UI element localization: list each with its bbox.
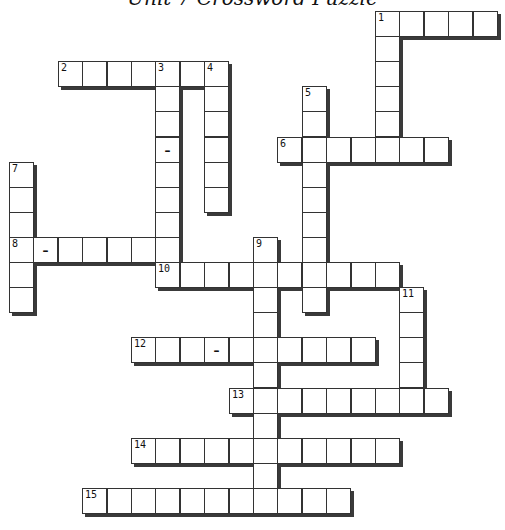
crossword-cell[interactable] [107, 237, 132, 263]
crossword-cell[interactable] [375, 61, 400, 87]
crossword-cell[interactable] [302, 438, 327, 464]
crossword-cell[interactable] [180, 262, 205, 288]
crossword-cell[interactable] [204, 488, 229, 514]
crossword-cell[interactable] [277, 438, 302, 464]
crossword-cell[interactable] [302, 137, 327, 163]
crossword-cell[interactable] [82, 61, 107, 87]
crossword-cell[interactable]: 15 [82, 488, 107, 514]
crossword-cell[interactable]: 14 [131, 438, 156, 464]
crossword-cell[interactable] [155, 187, 180, 213]
crossword-cell[interactable] [204, 162, 229, 188]
crossword-cell[interactable] [253, 362, 278, 388]
crossword-cell[interactable] [326, 262, 351, 288]
crossword-cell[interactable] [302, 237, 327, 263]
crossword-cell[interactable] [375, 111, 400, 137]
crossword-cell[interactable]: 6 [277, 137, 302, 163]
crossword-cell[interactable] [424, 11, 449, 37]
crossword-cell[interactable] [375, 438, 400, 464]
crossword-cell[interactable] [399, 337, 424, 363]
crossword-cell[interactable] [204, 86, 229, 112]
crossword-cell[interactable] [399, 312, 424, 338]
crossword-cell[interactable]: – [155, 137, 180, 163]
crossword-cell[interactable] [302, 488, 327, 514]
crossword-cell[interactable] [375, 137, 400, 163]
crossword-cell[interactable] [375, 86, 400, 112]
crossword-cell[interactable] [9, 287, 34, 313]
crossword-cell[interactable] [351, 388, 376, 414]
crossword-cell[interactable] [326, 388, 351, 414]
crossword-cell[interactable] [204, 187, 229, 213]
crossword-cell[interactable] [9, 187, 34, 213]
crossword-cell[interactable] [155, 111, 180, 137]
crossword-cell[interactable] [424, 388, 449, 414]
crossword-cell[interactable] [9, 212, 34, 238]
crossword-cell[interactable] [204, 262, 229, 288]
crossword-cell[interactable] [375, 388, 400, 414]
crossword-cell[interactable]: 5 [302, 86, 327, 112]
crossword-cell[interactable] [351, 262, 376, 288]
crossword-cell[interactable] [448, 11, 473, 37]
crossword-cell[interactable]: – [33, 237, 58, 263]
crossword-cell[interactable] [131, 488, 156, 514]
crossword-cell[interactable] [399, 388, 424, 414]
crossword-cell[interactable] [155, 237, 180, 263]
crossword-cell[interactable] [277, 388, 302, 414]
crossword-cell[interactable]: 7 [9, 162, 34, 188]
crossword-cell[interactable] [229, 337, 254, 363]
crossword-cell[interactable] [375, 262, 400, 288]
crossword-cell[interactable] [302, 287, 327, 313]
crossword-cell[interactable] [155, 488, 180, 514]
crossword-cell[interactable] [155, 337, 180, 363]
crossword-cell[interactable] [180, 488, 205, 514]
crossword-cell[interactable] [131, 61, 156, 87]
crossword-cell[interactable] [204, 137, 229, 163]
crossword-cell[interactable] [229, 438, 254, 464]
crossword-cell[interactable] [155, 86, 180, 112]
crossword-cell[interactable] [229, 262, 254, 288]
crossword-cell[interactable] [155, 438, 180, 464]
crossword-cell[interactable] [326, 488, 351, 514]
crossword-cell[interactable] [277, 337, 302, 363]
crossword-cell[interactable] [253, 337, 278, 363]
crossword-cell[interactable] [302, 262, 327, 288]
crossword-cell[interactable] [351, 438, 376, 464]
crossword-cell[interactable] [375, 36, 400, 62]
crossword-cell[interactable] [302, 388, 327, 414]
crossword-cell[interactable] [253, 262, 278, 288]
crossword-cell[interactable] [277, 488, 302, 514]
crossword-cell[interactable] [399, 11, 424, 37]
crossword-cell[interactable] [253, 463, 278, 489]
crossword-cell[interactable] [131, 237, 156, 263]
crossword-cell[interactable] [229, 488, 254, 514]
crossword-cell[interactable] [204, 111, 229, 137]
crossword-cell[interactable] [302, 337, 327, 363]
crossword-cell[interactable] [155, 162, 180, 188]
crossword-cell[interactable] [155, 212, 180, 238]
crossword-cell[interactable] [473, 11, 498, 37]
crossword-cell[interactable]: 8 [9, 237, 34, 263]
crossword-cell[interactable]: 3 [155, 61, 180, 87]
crossword-cell[interactable] [253, 312, 278, 338]
crossword-cell[interactable] [253, 388, 278, 414]
crossword-cell[interactable] [253, 413, 278, 439]
crossword-cell[interactable] [424, 137, 449, 163]
crossword-cell[interactable] [253, 287, 278, 313]
crossword-cell[interactable]: 12 [131, 337, 156, 363]
crossword-cell[interactable] [302, 212, 327, 238]
crossword-cell[interactable] [204, 438, 229, 464]
crossword-cell[interactable] [180, 61, 205, 87]
crossword-cell[interactable] [107, 488, 132, 514]
crossword-cell[interactable] [399, 137, 424, 163]
crossword-cell[interactable]: 10 [155, 262, 180, 288]
crossword-cell[interactable]: 11 [399, 287, 424, 313]
crossword-cell[interactable] [253, 438, 278, 464]
crossword-cell[interactable] [302, 187, 327, 213]
crossword-cell[interactable] [326, 438, 351, 464]
crossword-cell[interactable] [302, 111, 327, 137]
crossword-cell[interactable] [277, 262, 302, 288]
crossword-cell[interactable] [58, 237, 83, 263]
crossword-cell[interactable] [107, 61, 132, 87]
crossword-cell[interactable] [351, 337, 376, 363]
crossword-cell[interactable] [253, 488, 278, 514]
crossword-cell[interactable] [180, 337, 205, 363]
